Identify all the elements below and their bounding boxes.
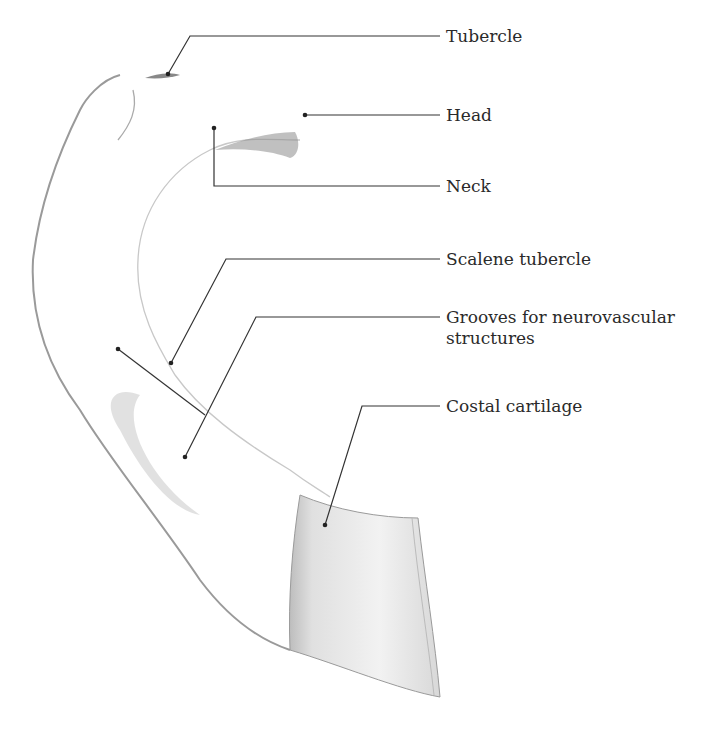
label-costal-cartilage: Costal cartilage xyxy=(446,396,582,417)
label-grooves-line2: structures xyxy=(446,328,535,349)
leader-scalene-tubercle xyxy=(171,259,440,363)
leader-tubercle xyxy=(168,36,440,74)
label-grooves-line1: Grooves for neurovascular xyxy=(446,307,675,328)
label-head: Head xyxy=(446,105,492,126)
label-tubercle: Tubercle xyxy=(446,26,522,47)
rib-illustration xyxy=(0,0,719,735)
label-neck: Neck xyxy=(446,176,491,197)
rib-shape xyxy=(33,70,440,698)
label-scalene-tubercle: Scalene tubercle xyxy=(446,249,591,270)
